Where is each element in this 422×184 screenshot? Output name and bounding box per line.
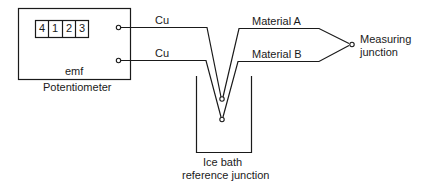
reference-junction-a: [220, 97, 224, 101]
material-a-wire: [223, 29, 349, 98]
display-digit-3: 2: [63, 21, 75, 36]
display-digit-4: 3: [76, 21, 88, 36]
display-digit-1: 4: [36, 21, 48, 36]
material-b-label: Material B: [252, 48, 302, 60]
measuring-junction-label-line1: Measuring: [360, 33, 411, 45]
display-digit-2: 1: [49, 21, 61, 36]
measuring-junction-point: [350, 42, 354, 46]
terminal-upper: [116, 25, 120, 29]
ice-bath-label-line1: Ice bath: [203, 156, 242, 168]
ice-bath-label-line2: reference junction: [182, 169, 269, 181]
cu-wire-lower: [121, 61, 221, 118]
reference-junction-b: [220, 117, 224, 121]
material-a-label: Material A: [252, 15, 301, 27]
terminal-lower: [116, 58, 120, 62]
cu-label-upper: Cu: [155, 14, 169, 26]
measuring-junction-label-line2: junction: [360, 46, 398, 58]
cu-label-lower: Cu: [155, 47, 169, 59]
emf-label: emf: [65, 65, 83, 77]
potentiometer-label: Potentiometer: [43, 81, 111, 93]
